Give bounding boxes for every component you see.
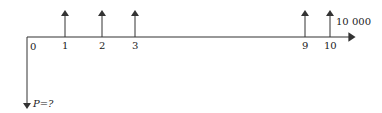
final-amount-label: 10 000 bbox=[336, 16, 371, 27]
present-value-label: P=? bbox=[32, 98, 54, 109]
period-label-1: 1 bbox=[62, 40, 68, 51]
period-label-10: 10 bbox=[324, 40, 337, 51]
period-label-9: 9 bbox=[302, 40, 308, 51]
period-label-0: 0 bbox=[30, 41, 36, 52]
cash-flow-diagram: 0 1 2 3 9 10 10 000 P=? bbox=[0, 0, 382, 113]
period-label-3: 3 bbox=[132, 40, 138, 51]
period-label-2: 2 bbox=[99, 40, 105, 51]
